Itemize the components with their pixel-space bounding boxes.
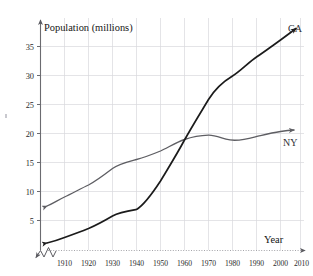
y-tick-label-15: 15 — [26, 159, 34, 168]
x-tick-label-1960: 1960 — [177, 259, 192, 268]
x-tick-label-1940: 1940 — [129, 259, 144, 268]
x-tick-label-2010: 2010 — [294, 259, 309, 268]
series-label-ny: NY — [283, 137, 297, 148]
chart-canvas: Population (millions) Year 5 10 15 20 25… — [0, 0, 313, 276]
series-label-ca: CA — [288, 23, 303, 34]
y-tick-label-25: 25 — [26, 101, 34, 110]
x-axis-title: Year — [264, 234, 284, 245]
y-tick-label-5: 5 — [30, 217, 34, 226]
scan-speck — [5, 114, 7, 118]
y-tick-label-30: 30 — [26, 72, 34, 81]
x-tick-label-1950: 1950 — [153, 259, 168, 268]
origin-down-arrow — [36, 251, 41, 258]
x-tick-labels: 1910 1920 1930 1940 1950 1960 1970 1980 … — [57, 259, 309, 268]
x-tick-label-1910: 1910 — [57, 259, 72, 268]
x-axis-break-zigzag — [41, 248, 57, 258]
x-tick-label-1920: 1920 — [81, 259, 96, 268]
y-axis-title: Population (millions) — [44, 22, 133, 34]
y-tick-labels: 5 10 15 20 25 30 35 — [26, 43, 34, 226]
x-tick-label-1990: 1990 — [249, 259, 264, 268]
population-line-chart: Population (millions) Year 5 10 15 20 25… — [0, 0, 313, 276]
y-tick-label-10: 10 — [26, 188, 34, 197]
y-tick-label-35: 35 — [26, 43, 34, 52]
x-tick-label-1930: 1930 — [105, 259, 120, 268]
x-tick-label-2000: 2000 — [273, 259, 288, 268]
x-tick-label-1970: 1970 — [201, 259, 216, 268]
axes — [36, 20, 305, 258]
grid-lines — [40, 18, 304, 250]
y-tick-label-20: 20 — [26, 130, 34, 139]
x-tick-label-1980: 1980 — [225, 259, 240, 268]
series-line-ny — [47, 130, 294, 206]
